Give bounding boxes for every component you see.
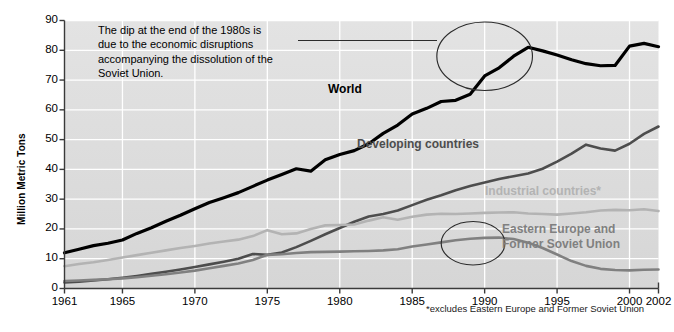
x-axis-tick-label: 1970: [175, 295, 215, 307]
y-axis-title: Million Metric Tons: [16, 133, 27, 225]
x-axis-tick-label: 1980: [320, 295, 360, 307]
x-axis-tick-label: 1961: [45, 295, 85, 307]
series-label-eastern-europe: Eastern Europe andFormer Soviet Union: [502, 222, 620, 252]
series-label-world: World: [328, 82, 362, 96]
annotation-note-text: The dip at the end of the 1980s isdue to…: [98, 23, 273, 80]
series-label-industrial-countries: Industrial countries*: [485, 184, 601, 198]
annotation-note-line-2: accompanying the dissolution of the: [98, 52, 273, 66]
chart-footnote: *excludes Eastern Europe and Former Sovi…: [426, 303, 644, 314]
x-axis-tick-label: 1975: [247, 295, 287, 307]
y-axis-tick-label: 0: [20, 281, 58, 293]
annotation-note-line-0: The dip at the end of the 1980s is: [98, 23, 273, 37]
series-label-eastern-europe-line-1: Former Soviet Union: [502, 237, 620, 252]
series-label-developing-countries: Developing countries: [357, 137, 479, 151]
annotation-note-line-1: due to the economic disruptions: [98, 37, 273, 51]
x-axis-tick-label: 1965: [102, 295, 142, 307]
y-axis-tick-label: 60: [20, 102, 58, 114]
y-axis-tick-label: 10: [20, 251, 58, 263]
chart-figure: 0102030405060708090196119651970197519801…: [0, 0, 674, 332]
y-axis-tick-label: 80: [20, 43, 58, 55]
series-label-eastern-europe-line-0: Eastern Europe and: [502, 222, 620, 237]
y-axis-tick-label: 90: [20, 13, 58, 25]
annotation-note-line-3: Soviet Union.: [98, 66, 273, 80]
y-axis-tick-label: 70: [20, 73, 58, 85]
